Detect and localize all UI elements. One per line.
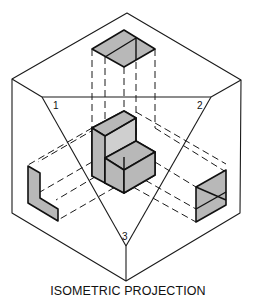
plane-label-3: 3	[122, 231, 128, 242]
left-view	[28, 166, 58, 221]
plane-edge-left	[12, 79, 42, 97]
plane-label-1: 1	[53, 100, 59, 111]
l-shaped-object	[92, 111, 155, 193]
plane-edge-right	[211, 80, 241, 97]
plane-label-2: 2	[197, 100, 203, 111]
isometric-projection-diagram: 1 2 3	[0, 0, 256, 305]
diagram-caption: ISOMETRIC PROJECTION	[0, 284, 256, 298]
right-view	[196, 170, 226, 222]
top-view	[92, 30, 155, 67]
